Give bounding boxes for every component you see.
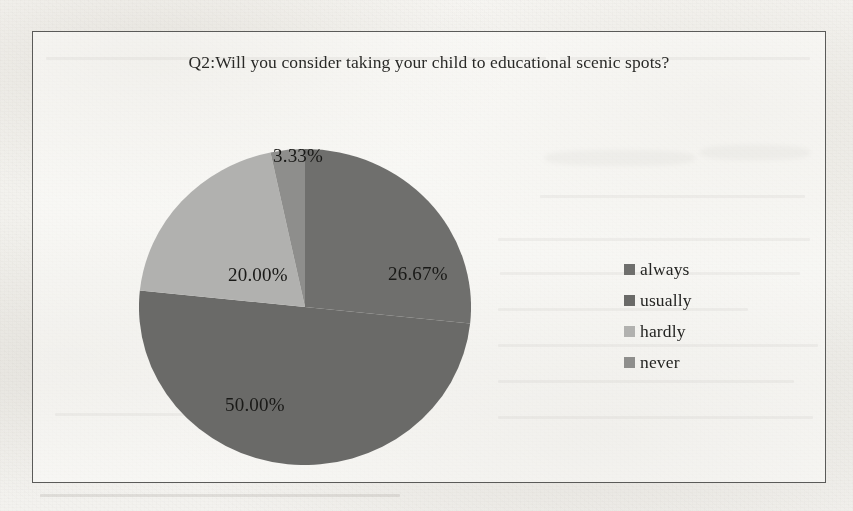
ghost-text-line (40, 494, 400, 497)
legend-swatch-icon (624, 357, 635, 368)
legend-swatch-icon (624, 326, 635, 337)
pie-data-label-hardly: 20.00% (228, 264, 288, 286)
legend-label-always: always (640, 259, 690, 280)
legend-item-always: always (624, 254, 692, 285)
pie-chart (139, 149, 471, 465)
legend-swatch-icon (624, 295, 635, 306)
legend-swatch-icon (624, 264, 635, 275)
pie-data-label-never: 3.33% (273, 145, 323, 167)
legend-item-hardly: hardly (624, 316, 692, 347)
chart-title: Q2:Will you consider taking your child t… (33, 52, 825, 73)
pie-data-label-always: 26.67% (388, 263, 448, 285)
legend-item-usually: usually (624, 285, 692, 316)
pie-slice-always (305, 149, 471, 324)
legend-label-usually: usually (640, 290, 692, 311)
legend-label-never: never (640, 352, 680, 373)
chart-legend: always usually hardly never (624, 254, 692, 378)
legend-item-never: never (624, 347, 692, 378)
legend-label-hardly: hardly (640, 321, 686, 342)
scanned-page: Q2:Will you consider taking your child t… (0, 0, 853, 511)
pie-chart-svg (139, 149, 471, 465)
chart-frame: Q2:Will you consider taking your child t… (32, 31, 826, 483)
pie-data-label-usually: 50.00% (225, 394, 285, 416)
